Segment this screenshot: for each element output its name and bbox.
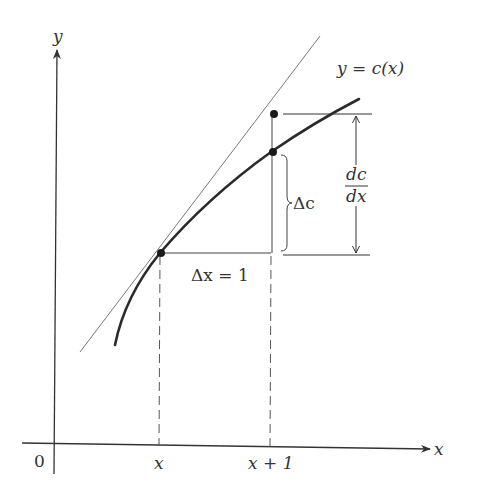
point-at-x — [157, 249, 165, 257]
x-axis — [22, 443, 430, 449]
curve-label: y = c(x) — [336, 58, 404, 78]
tangent-line — [80, 36, 320, 352]
delta-c-label: Δc — [293, 193, 315, 213]
origin-label: 0 — [34, 451, 45, 471]
tick-label-x-plus-1: x + 1 — [248, 453, 293, 473]
derivative-denominator: dx — [346, 186, 367, 206]
dashed-line-x — [159, 256, 160, 446]
derivative-numerator: dc — [346, 164, 367, 184]
y-axis-label: y — [52, 26, 63, 46]
point-at-x-plus-1-tangent — [270, 110, 278, 118]
x-axis-label: x — [434, 439, 444, 459]
diagram-canvas: y x 0 x x + 1 y = c(x) Δx = 1 Δc dc dx — [0, 0, 478, 494]
delta-x-label: Δx = 1 — [191, 265, 249, 285]
dashed-line-x-plus-1 — [270, 256, 271, 448]
tick-label-x: x — [154, 453, 164, 473]
delta-c-brace — [281, 155, 292, 251]
point-at-x-plus-1-curve — [269, 148, 277, 156]
cost-curve — [115, 99, 359, 345]
y-axis — [54, 50, 57, 474]
